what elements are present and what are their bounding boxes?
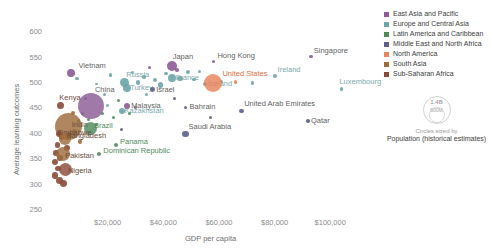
data-point bbox=[109, 73, 113, 77]
data-point bbox=[95, 83, 98, 86]
data-point bbox=[106, 104, 109, 107]
data-point-label: Iceland bbox=[208, 79, 232, 88]
data-point-nigeria bbox=[59, 163, 72, 176]
y-axis-tick: 250 bbox=[8, 205, 42, 214]
data-point bbox=[173, 97, 176, 100]
legend-swatch bbox=[384, 22, 389, 27]
data-point bbox=[52, 172, 58, 178]
data-point-dominican-republic bbox=[97, 152, 101, 156]
legend-item-europe-and-central-asia[interactable]: Europe and Central Asia bbox=[384, 20, 489, 29]
data-point-label: Brazil bbox=[94, 121, 113, 130]
data-point bbox=[87, 118, 90, 121]
legend-swatch bbox=[384, 32, 389, 37]
data-point-label: Japan bbox=[173, 52, 193, 61]
y-axis-tick: 550 bbox=[8, 53, 42, 62]
legend-label: Sub-Saharan Africa bbox=[393, 70, 454, 79]
legend-swatch bbox=[384, 62, 389, 67]
data-point-label: Bangladesh bbox=[67, 131, 107, 140]
data-point-label: Singapore bbox=[314, 46, 348, 55]
x-axis-tick: $100,000 bbox=[300, 218, 360, 227]
data-point-label: China bbox=[95, 85, 115, 94]
data-point-label: Dominican Republic bbox=[103, 146, 170, 155]
data-point-label: Kenya bbox=[59, 93, 80, 102]
data-point-united-states bbox=[204, 74, 222, 92]
data-point-united-arab-emirates bbox=[239, 109, 244, 114]
legend-item-south-asia[interactable]: South Asia bbox=[384, 60, 489, 69]
data-point bbox=[134, 106, 137, 109]
data-point-label: Vietnam bbox=[78, 61, 105, 70]
legend-label: South Asia bbox=[393, 60, 426, 69]
data-point bbox=[55, 166, 61, 172]
data-point-label: India bbox=[72, 120, 88, 129]
data-point bbox=[186, 70, 190, 74]
data-point bbox=[101, 112, 104, 115]
legend-item-east-asia-and-pacific[interactable]: East Asia and Pacific bbox=[384, 10, 489, 19]
x-axis-tick: $60,000 bbox=[189, 218, 249, 227]
legend-swatch bbox=[384, 12, 389, 17]
legend-item-sub-saharan-africa[interactable]: Sub-Saharan Africa bbox=[384, 70, 489, 79]
data-point-brazil bbox=[84, 122, 97, 135]
legend-label: Latin America and Caribbean bbox=[393, 30, 483, 39]
data-point-label: Bahrain bbox=[190, 102, 216, 111]
data-point-china bbox=[78, 93, 104, 119]
legend-item-latin-america-and-caribbean[interactable]: Latin America and Caribbean bbox=[384, 30, 489, 39]
data-point-luxembourg bbox=[340, 87, 343, 90]
data-point bbox=[136, 80, 140, 84]
data-point bbox=[192, 78, 195, 81]
data-point bbox=[53, 150, 59, 156]
data-point-label: Turkey bbox=[130, 83, 153, 92]
data-point-label: Russia bbox=[126, 70, 149, 79]
data-point-india bbox=[55, 113, 82, 140]
data-point bbox=[198, 70, 201, 73]
data-point-label: Nigeria bbox=[68, 166, 92, 175]
data-point bbox=[234, 80, 237, 83]
data-point-bangladesh bbox=[59, 133, 71, 145]
data-point bbox=[64, 145, 70, 151]
data-point-label: Ireland bbox=[278, 65, 301, 74]
legend-item-middle-east-and-north-africa[interactable]: Middle East and North Africa bbox=[384, 40, 489, 49]
data-point-japan bbox=[167, 61, 177, 71]
x-axis-title: GDP per capita bbox=[185, 234, 236, 243]
data-point bbox=[117, 99, 120, 102]
data-point bbox=[60, 180, 67, 187]
y-axis-title: Average learning outcomes bbox=[12, 84, 21, 175]
data-point bbox=[120, 128, 123, 131]
size-legend-small-value: 600M bbox=[424, 107, 450, 113]
bubble-scatter-chart: VietnamJapanHong KongSingaporeRussiaTurk… bbox=[0, 0, 491, 249]
data-point bbox=[71, 111, 75, 115]
legend-label: Europe and Central Asia bbox=[393, 20, 469, 29]
size-legend-large-value: 1.4B bbox=[424, 99, 450, 105]
data-point-label: United Arab Emirates bbox=[244, 99, 315, 108]
data-point bbox=[59, 135, 64, 140]
data-point bbox=[128, 112, 131, 115]
data-point-label: Saudi Arabia bbox=[189, 122, 232, 131]
legend-item-north-america[interactable]: North America bbox=[384, 50, 489, 59]
data-point-label: Israel bbox=[156, 85, 174, 94]
data-point-label: Hong Kong bbox=[217, 51, 255, 60]
data-point-label: Malaysia bbox=[131, 101, 161, 110]
data-point bbox=[112, 116, 115, 119]
data-point-vietnam bbox=[67, 69, 75, 77]
data-point-label: Kazakhstan bbox=[125, 106, 164, 115]
data-point bbox=[84, 97, 87, 100]
legend-swatch bbox=[384, 52, 389, 57]
data-point bbox=[81, 112, 85, 116]
data-point bbox=[57, 155, 63, 161]
data-point-panama bbox=[114, 143, 118, 147]
data-point-iceland bbox=[203, 82, 207, 86]
data-point bbox=[158, 82, 163, 87]
data-point bbox=[56, 177, 63, 184]
data-point bbox=[153, 78, 157, 82]
data-point bbox=[55, 142, 60, 147]
legend-swatch bbox=[384, 42, 389, 47]
x-axis-tick: $20,000 bbox=[78, 218, 138, 227]
data-point bbox=[72, 129, 77, 134]
data-point bbox=[175, 68, 179, 72]
data-point bbox=[103, 93, 106, 96]
legend-label: Middle East and North Africa bbox=[393, 40, 482, 49]
data-point bbox=[75, 77, 78, 80]
size-legend-caption-metric: Population (historical estimates) bbox=[384, 135, 489, 144]
y-axis-tick: 600 bbox=[8, 27, 42, 36]
data-point-label: France bbox=[176, 73, 199, 82]
data-point bbox=[177, 76, 182, 81]
